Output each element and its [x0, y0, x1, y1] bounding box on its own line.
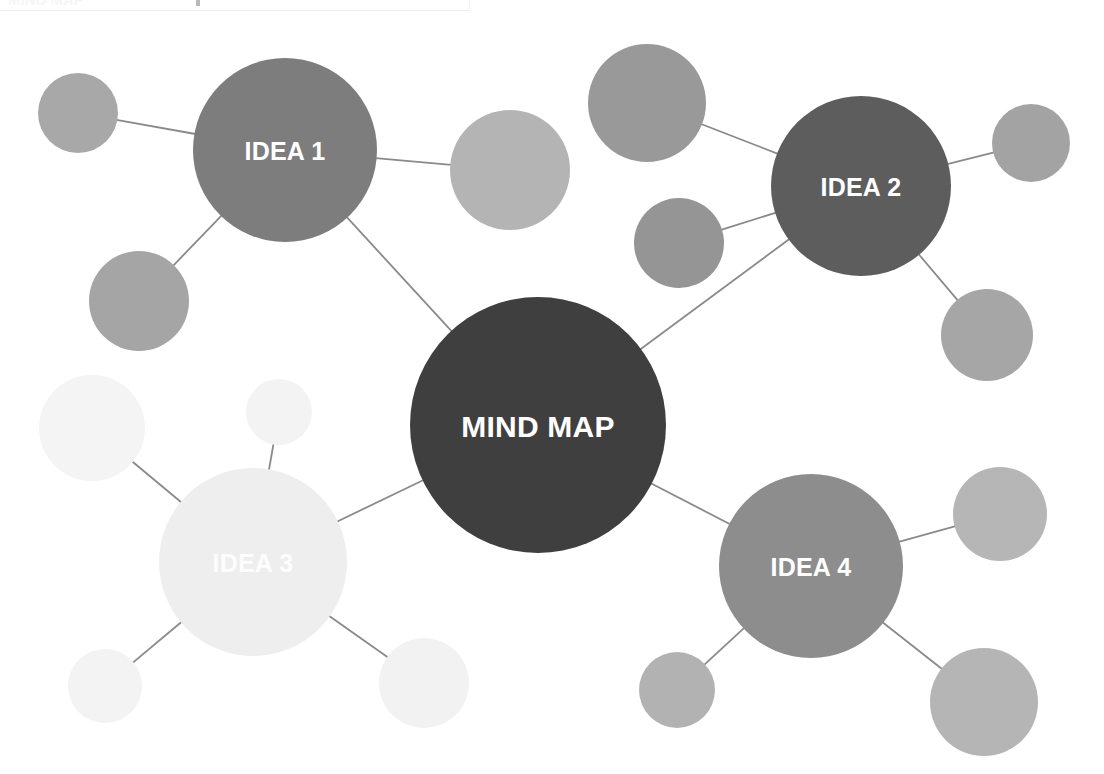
idea-node-idea2[interactable]: IDEA 2	[771, 96, 951, 276]
satellite-node-s3b[interactable]	[246, 379, 312, 445]
satellite-node-s1b[interactable]	[450, 110, 570, 230]
satellite-node-s1c-circle[interactable]	[89, 251, 189, 351]
satellite-node-s3a[interactable]	[39, 375, 145, 481]
satellite-node-s4a-circle[interactable]	[953, 467, 1047, 561]
edge-idea1-to-s1c	[173, 215, 222, 265]
edge-idea4-to-s4c	[883, 622, 943, 669]
satellite-node-s2a-circle[interactable]	[588, 44, 706, 162]
idea-node-idea4[interactable]: IDEA 4	[719, 474, 903, 658]
satellite-node-s2c-circle[interactable]	[992, 104, 1070, 182]
idea-node-idea3-label: IDEA 3	[213, 549, 294, 577]
edge-idea2-to-s2c	[947, 152, 994, 164]
satellite-node-s2a[interactable]	[588, 44, 706, 162]
edge-idea3-to-s3c	[133, 622, 182, 663]
edge-idea2-to-s2d	[918, 254, 957, 301]
satellite-node-s1c[interactable]	[89, 251, 189, 351]
idea-node-idea1-label: IDEA 1	[245, 137, 326, 165]
idea-node-idea4-label: IDEA 4	[771, 553, 852, 581]
satellite-node-s4c-circle[interactable]	[930, 648, 1038, 756]
satellite-node-s3c-circle[interactable]	[68, 649, 142, 723]
satellite-node-s3c[interactable]	[68, 649, 142, 723]
edge-idea1-to-s1b	[376, 158, 452, 165]
idea-node-idea1[interactable]: IDEA 1	[193, 58, 377, 242]
edge-central-to-idea1	[347, 217, 452, 332]
satellite-node-s3d-circle[interactable]	[379, 638, 469, 728]
edge-idea2-to-s2b	[721, 213, 776, 230]
satellite-node-s2b-circle[interactable]	[634, 198, 724, 288]
satellite-node-s3a-circle[interactable]	[39, 375, 145, 481]
satellite-node-s4a[interactable]	[953, 467, 1047, 561]
central-node[interactable]: MIND MAP	[410, 297, 666, 553]
satellite-node-s2d[interactable]	[941, 289, 1033, 381]
edge-idea4-to-s4a	[899, 526, 956, 542]
edge-idea3-to-s3d	[329, 616, 388, 658]
satellite-node-s2c[interactable]	[992, 104, 1070, 182]
satellite-node-s4b[interactable]	[639, 652, 715, 728]
satellite-node-s2d-circle[interactable]	[941, 289, 1033, 381]
satellite-node-s3b-circle[interactable]	[246, 379, 312, 445]
edge-central-to-idea3	[337, 480, 424, 522]
node-layer: IDEA 1IDEA 2IDEA 3IDEA 4MIND MAP	[38, 44, 1070, 756]
idea-node-idea2-label: IDEA 2	[821, 173, 902, 201]
edge-idea4-to-s4b	[704, 628, 744, 665]
edge-idea2-to-s2a	[701, 124, 778, 154]
central-node-label: MIND MAP	[461, 410, 614, 443]
satellite-node-s4b-circle[interactable]	[639, 652, 715, 728]
satellite-node-s3d[interactable]	[379, 638, 469, 728]
mind-map-canvas: MIND MAP IDEA 1IDEA 2IDEA 3IDEA 4MIND MA…	[0, 0, 1104, 774]
idea-node-idea3[interactable]: IDEA 3	[159, 468, 347, 656]
edge-central-to-idea4	[651, 483, 730, 524]
satellite-node-s4c[interactable]	[930, 648, 1038, 756]
satellite-node-s1a[interactable]	[38, 73, 118, 153]
edge-idea3-to-s3b	[269, 444, 274, 471]
edge-idea3-to-s3a	[132, 461, 182, 502]
satellite-node-s1a-circle[interactable]	[38, 73, 118, 153]
mind-map-diagram: IDEA 1IDEA 2IDEA 3IDEA 4MIND MAP	[0, 0, 1104, 774]
edge-idea1-to-s1a	[116, 120, 195, 134]
satellite-node-s2b[interactable]	[634, 198, 724, 288]
satellite-node-s1b-circle[interactable]	[450, 110, 570, 230]
